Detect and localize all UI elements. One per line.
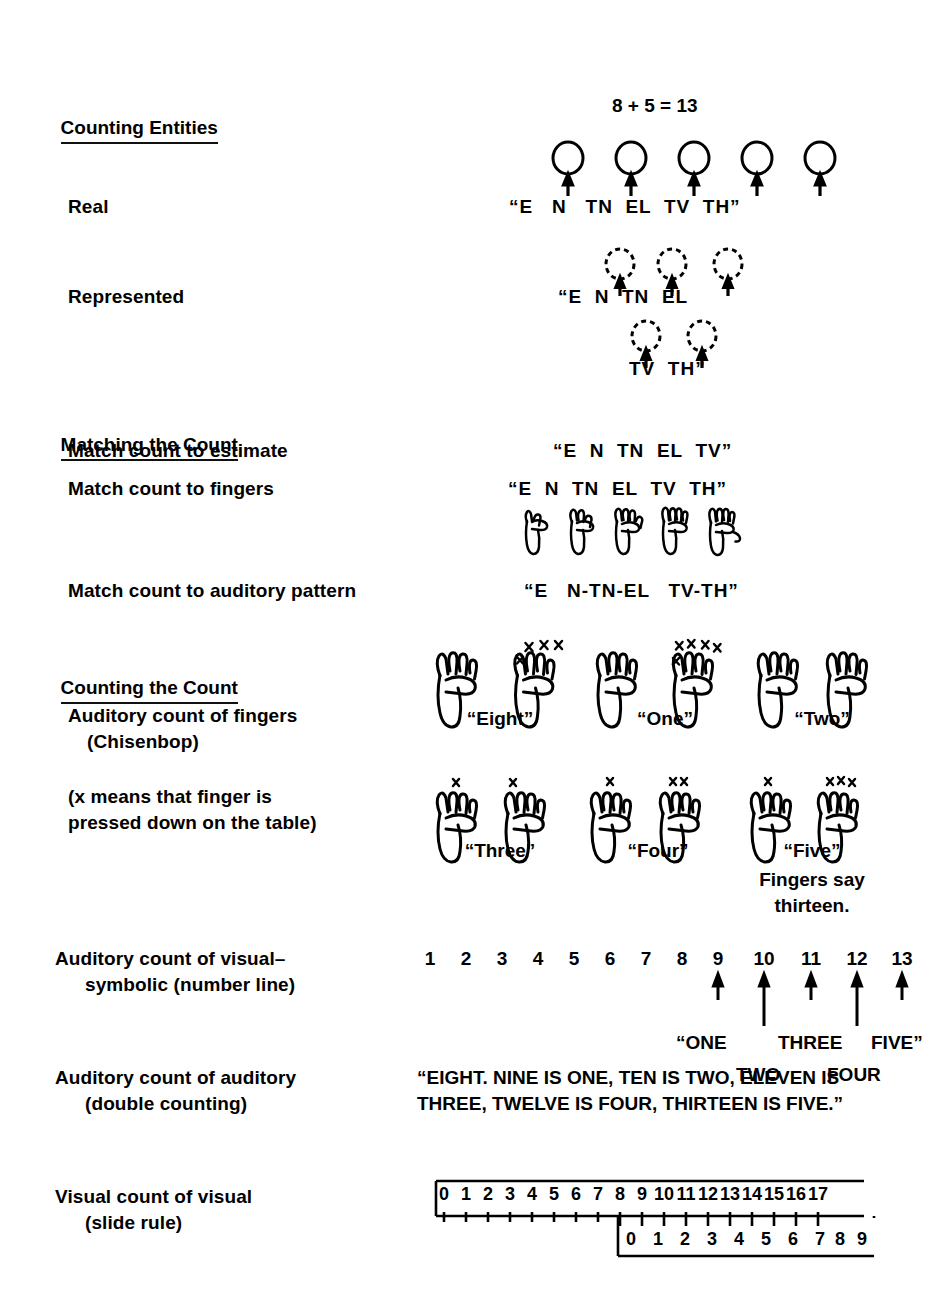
slide-rule-top-7: 7 [593, 1184, 603, 1205]
chisenbop-row-1 [424, 640, 884, 715]
slide-rule-top-15: 15 [764, 1184, 784, 1205]
number-line-tick-4: 4 [533, 948, 544, 970]
chisenbop-caption-four: “Four” [598, 840, 718, 862]
slide-rule-bottom-6: 6 [788, 1229, 798, 1250]
row-label-match-count-to-estimate: Match count to estimate [68, 440, 288, 462]
slide-rule-bottom-2: 2 [680, 1229, 690, 1250]
slide-rule-top-9: 9 [637, 1184, 647, 1205]
match-count-to-estimate-value: “E N TN EL TV” [553, 440, 732, 462]
number-line-tick-7: 7 [641, 948, 652, 970]
slide-rule-group: 0 1 2 3 4 5 6 7 8 9 10 11 12 13 14 15 16… [434, 1178, 894, 1288]
number-line-group: 1 2 3 4 5 6 7 8 9 10 11 12 13 “ONE THREE… [410, 948, 890, 1058]
match-count-to-auditory-pattern-value: “E N-TN-EL TV-TH” [524, 580, 739, 602]
number-line-tick-11: 11 [801, 948, 821, 970]
slide-rule-bottom-1: 1 [653, 1229, 663, 1250]
number-line-tick-8: 8 [677, 948, 688, 970]
slide-rule-bottom-0: 0 [626, 1229, 636, 1250]
real-utterance: “E N TN EL TV TH” [509, 196, 741, 218]
row-label-auditory-count-of-fingers-line1: Auditory count of fingers [68, 705, 297, 727]
number-line-tick-9: 9 [713, 948, 724, 970]
section-heading-counting-the-count: Counting the Count [50, 655, 238, 704]
number-line-tick-12: 12 [846, 948, 867, 970]
number-line-tick-5: 5 [569, 948, 580, 970]
slide-rule-top-6: 6 [571, 1184, 581, 1205]
match-count-to-fingers-value: “E N TN EL TV TH” [508, 478, 727, 500]
chisenbop-caption-five: “Five” [752, 840, 872, 862]
finger-count-hands-group [515, 505, 755, 557]
number-line-tick-10: 10 [753, 948, 774, 970]
number-line-word-five: FIVE” [871, 1032, 923, 1054]
number-line-tick-6: 6 [605, 948, 616, 970]
slide-rule-top-3: 3 [505, 1184, 515, 1205]
row-label-double-counting-line1: Auditory count of auditory [55, 1067, 296, 1089]
represented-utterance-line2: TV TH” [629, 358, 706, 380]
slide-rule-top-10: 10 [654, 1184, 674, 1205]
slide-rule-top-16: 16 [786, 1184, 806, 1205]
slide-rule-top-1: 1 [461, 1184, 471, 1205]
row-label-auditory-count-of-fingers-line2: (Chisenbop) [87, 731, 199, 753]
slide-rule-bottom-8: 8 [835, 1229, 845, 1250]
double-counting-value-line1: “EIGHT. NINE IS ONE, TEN IS TWO, ELEVEN … [417, 1067, 839, 1089]
slide-rule-top-2: 2 [483, 1184, 493, 1205]
number-line-tick-13: 13 [891, 948, 912, 970]
row-label-match-count-to-auditory-pattern: Match count to auditory pattern [68, 580, 356, 602]
slide-rule-bottom-7: 7 [815, 1229, 825, 1250]
slide-rule-top-0: 0 [439, 1184, 449, 1205]
row-label-slide-rule-line1: Visual count of visual [55, 1186, 252, 1208]
chisenbop-caption-eight: “Eight” [440, 708, 560, 730]
chisenbop-footnote-line2: thirteen. [742, 895, 882, 917]
slide-rule-top-12: 12 [698, 1184, 718, 1205]
slide-rule-top-14: 14 [742, 1184, 762, 1205]
section-heading-counting-entities: Counting Entities [50, 95, 218, 144]
row-note-x-means-line1: (x means that finger is [68, 786, 272, 808]
number-line-tick-1: 1 [425, 948, 436, 970]
equation-title: 8 + 5 = 13 [612, 95, 698, 117]
slide-rule-top-17: 17 [808, 1184, 828, 1205]
number-line-word-one: “ONE [676, 1032, 727, 1054]
represented-utterance-line1: “E N TN EL [558, 286, 688, 308]
chisenbop-footnote-line1: Fingers say [742, 869, 882, 891]
number-line-tick-2: 2 [461, 948, 472, 970]
row-note-x-means-line2: pressed down on the table) [68, 812, 317, 834]
row-label-slide-rule-line2: (slide rule) [85, 1212, 182, 1234]
number-line-word-three: THREE [778, 1032, 842, 1054]
slide-rule-bottom-5: 5 [761, 1229, 771, 1250]
row-label-number-line-line2: symbolic (number line) [85, 974, 295, 996]
slide-rule-top-11: 11 [676, 1184, 695, 1205]
chisenbop-caption-three: “Three” [440, 840, 560, 862]
row-label-real: Real [68, 196, 109, 218]
section-heading-counting-the-count-label: Counting the Count [61, 677, 238, 704]
slide-rule-top-5: 5 [549, 1184, 559, 1205]
row-label-number-line-line1: Auditory count of visual– [55, 948, 286, 970]
slide-rule-bottom-3: 3 [707, 1229, 717, 1250]
double-counting-value-line2: THREE, TWELVE IS FOUR, THIRTEEN IS FIVE.… [417, 1093, 843, 1115]
section-heading-counting-entities-label: Counting Entities [61, 117, 218, 144]
slide-rule-bottom-4: 4 [734, 1229, 744, 1250]
number-line-arrows [410, 972, 930, 1058]
row-label-represented: Represented [68, 286, 184, 308]
slide-rule-top-8: 8 [615, 1184, 625, 1205]
row-label-match-count-to-fingers: Match count to fingers [68, 478, 274, 500]
slide-rule-bottom-9: 9 [857, 1229, 867, 1250]
row-label-double-counting-line2: (double counting) [85, 1093, 247, 1115]
chisenbop-caption-one: “One” [605, 708, 725, 730]
number-line-tick-3: 3 [497, 948, 508, 970]
slide-rule-top-13: 13 [720, 1184, 740, 1205]
chisenbop-caption-two: “Two” [762, 708, 882, 730]
slide-rule-top-4: 4 [527, 1184, 537, 1205]
